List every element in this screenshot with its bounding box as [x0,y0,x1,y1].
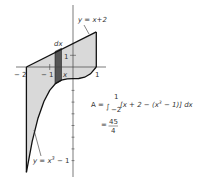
lower-curve-label: y = x3 − 1 [32,155,70,165]
formula-lhs: A = [91,101,104,109]
area-formula: A = ∫ 1 −2 [x + 2 − (x3 − 1)] dx = 45 4 [91,93,194,135]
x-tick-label-neg2: − 2 [14,71,27,79]
y-tick-label-1: 1 [64,53,68,61]
result-numerator: 45 [109,118,118,126]
x-tick-label-neg1: − 1 [41,71,54,79]
result-denominator: 4 [111,127,116,135]
x-tick-label-1: 1 [95,71,99,79]
integral-sign: ∫ [106,103,110,111]
integral-upper-limit: 1 [114,93,118,101]
dx-label: dx [54,40,63,48]
upper-label-leader [84,25,89,34]
dx-strip [55,48,62,84]
integrand: [x + 2 − (x3 − 1)] dx [120,100,194,109]
upper-curve-label: y = x+2 [77,16,107,24]
result-equals: = [101,121,107,129]
area-diagram: y = x+2 dx 1 − 2 − 1 x 1 y = x3 − 1 A = … [0,0,205,182]
lower-label-leader [34,130,41,156]
x-variable-label: x [62,71,68,79]
